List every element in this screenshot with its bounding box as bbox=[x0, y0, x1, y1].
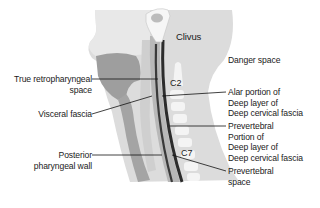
label-clivus: Clivus bbox=[176, 32, 201, 43]
label-prevertebral-portion: Prevertebral Portion of Deep layer of De… bbox=[228, 121, 303, 163]
label-posterior-pharyngeal-wall: Posterior pharyngeal wall bbox=[34, 150, 92, 171]
clivus-shadow bbox=[151, 14, 163, 23]
face-profile bbox=[89, 10, 150, 58]
label-prevertebral-space: Prevertebral space bbox=[228, 166, 274, 187]
label-alar-portion: Alar portion of Deep layer of Deep cervi… bbox=[228, 87, 303, 119]
label-c7: C7 bbox=[181, 148, 192, 159]
label-danger-space: Danger space bbox=[228, 55, 280, 66]
label-true-retropharyngeal-space: True retropharyngeal space bbox=[14, 74, 92, 95]
neck-fascia-diagram: Clivus Danger space C2 C7 True retrophar… bbox=[0, 0, 320, 208]
label-visceral-fascia: Visceral fascia bbox=[38, 109, 92, 120]
label-c2: C2 bbox=[170, 78, 181, 89]
